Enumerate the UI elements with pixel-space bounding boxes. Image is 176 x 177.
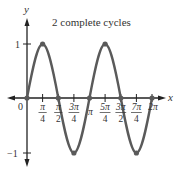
x-tick-labels: π 4 π 2 3π 4 π 5π 4 3π 2 7π 4 2π [39,102,158,124]
tick-den: 4 [40,114,45,124]
tick-den: 2 [56,114,61,124]
tick-num: 3π [68,102,79,112]
tick-num: π [88,107,93,117]
tick-num: π [56,102,61,112]
origin-label: 0 [18,101,23,112]
y-axis-arrow-down-icon [25,159,30,167]
annotation-label: 2 complete cycles [52,16,131,28]
y-axis-arrow-up-icon [25,18,30,26]
tick-den: 4 [72,114,77,124]
tick-num: 3π [115,102,126,112]
tick-den: 2 [118,114,123,124]
y-axis-label: y [23,3,29,15]
x-axis-arrow-left-icon [7,96,15,101]
tick-den: 4 [134,114,139,124]
y-label-1: 1 [15,39,20,50]
tick-num: 5π [100,102,110,112]
x-axis-arrow-right-icon [158,96,166,101]
y-label-neg1: −1 [7,148,18,159]
tick-num: 7π [132,102,142,112]
tick-num: 2π [148,102,158,112]
tick-num: π [40,102,45,112]
sine-chart: 2 complete cycles y x 0 1 −1 π 4 π 2 3π … [0,0,176,177]
x-axis-label: x [167,91,173,103]
tick-den: 4 [103,114,108,124]
